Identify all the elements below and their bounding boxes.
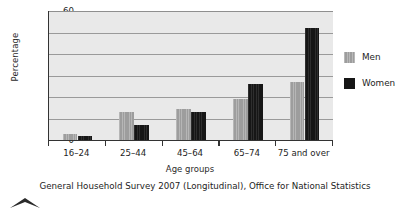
bar-men-3 bbox=[233, 99, 248, 140]
x-axis-tick-mark bbox=[48, 141, 49, 146]
x-axis-tick-mark bbox=[162, 141, 163, 146]
legend-label: Men bbox=[362, 52, 381, 62]
x-axis-tick-mark bbox=[218, 141, 219, 146]
bar-women-1 bbox=[134, 125, 149, 140]
x-axis-title: Age groups bbox=[48, 164, 332, 174]
chevron-up-mark-icon bbox=[8, 196, 42, 210]
bar-men-2 bbox=[176, 109, 191, 140]
y-axis-title: Percentage bbox=[10, 14, 20, 100]
bar-men-1 bbox=[119, 112, 134, 140]
x-axis-tick-label: 16–24 bbox=[63, 148, 89, 158]
x-axis-tick-mark bbox=[332, 141, 333, 146]
legend-swatch-icon bbox=[344, 78, 355, 89]
bar-men-0 bbox=[63, 134, 78, 140]
legend-swatch-icon bbox=[344, 52, 355, 63]
bar-women-3 bbox=[248, 84, 263, 140]
bar-women-4 bbox=[305, 28, 320, 140]
legend-item-men: Men bbox=[344, 44, 395, 70]
bar-series-container bbox=[49, 11, 333, 140]
bar-men-4 bbox=[290, 82, 305, 140]
x-axis-tick-label: 65–74 bbox=[234, 148, 260, 158]
bar-women-0 bbox=[78, 136, 93, 140]
legend-label: Women bbox=[362, 78, 395, 88]
legend-item-women: Women bbox=[344, 70, 395, 96]
bar-chart-figure: Percentage 0102030405060 16–2425–4445–64… bbox=[0, 0, 410, 214]
bar-women-2 bbox=[191, 112, 206, 140]
x-axis-tick-label: 25–44 bbox=[120, 148, 146, 158]
x-axis-tick-mark bbox=[105, 141, 106, 146]
x-axis-tick-label: 75 and over bbox=[278, 148, 330, 158]
legend: MenWomen bbox=[344, 44, 395, 96]
x-axis-tick-mark bbox=[275, 141, 276, 146]
plot-area bbox=[48, 11, 333, 141]
source-caption: General Household Survey 2007 (Longitudi… bbox=[0, 181, 410, 191]
x-axis-tick-label: 45–64 bbox=[177, 148, 203, 158]
